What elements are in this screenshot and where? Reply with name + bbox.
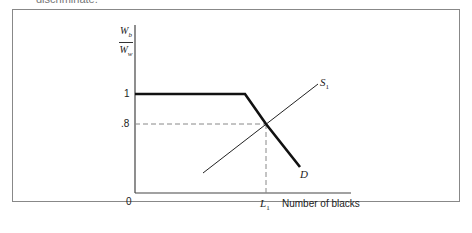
y-label-denominator: W [119, 44, 127, 55]
x-axis-label: Number of blacks [282, 198, 360, 209]
s1-sub: 1 [326, 83, 330, 91]
series-label-d: D [300, 168, 308, 180]
series-label-s1: S1 [320, 76, 329, 91]
origin-label: 0 [126, 196, 132, 207]
y-label-numerator-sub: b [128, 31, 132, 39]
chart-plot [0, 0, 472, 233]
y-tick-0.8: .8 [121, 118, 129, 129]
l1-sub: 1 [266, 204, 270, 212]
y-label-denominator-sub: w [128, 50, 133, 58]
supply-line-s1 [203, 84, 318, 173]
demand-line-d [135, 94, 300, 167]
x-tick-l1: L1 [260, 197, 270, 212]
fraction-bar [119, 42, 133, 43]
y-axis-label: Wb Ww [119, 25, 133, 60]
y-tick-1: 1 [124, 88, 130, 99]
